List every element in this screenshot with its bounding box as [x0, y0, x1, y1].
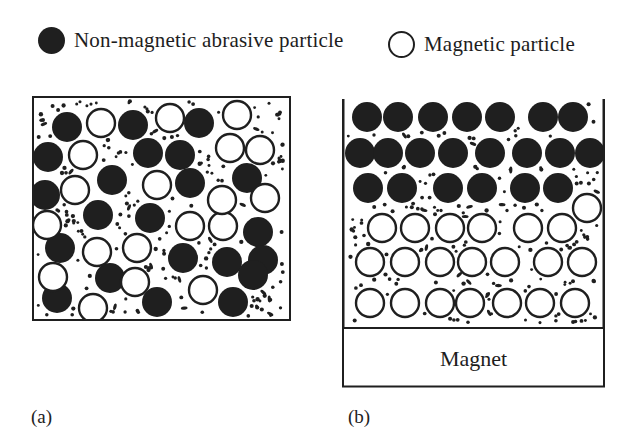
magnetic-particle [426, 248, 454, 276]
nonmagnetic-abrasive-particle [575, 138, 605, 168]
magnetic-particle [246, 136, 274, 164]
nonmagnetic-abrasive-particle [475, 138, 505, 168]
magnetic-particle [156, 104, 184, 132]
magnetic-particle [391, 289, 419, 317]
nonmagnetic-abrasive-particle [238, 260, 268, 290]
panel-b-separated-particles-diagram: Magnet [342, 98, 605, 388]
nonmagnetic-abrasive-particle [133, 138, 163, 168]
nonmagnetic-abrasive-particle [218, 287, 248, 317]
magnetic-particle [121, 268, 149, 296]
magnet-label: Magnet [440, 346, 507, 371]
magnetic-particle [143, 171, 171, 199]
magnetic-particle [548, 214, 576, 242]
magnetic-particle [209, 212, 237, 240]
magnetic-particle [368, 214, 396, 242]
nonmagnetic-abrasive-particle [168, 243, 198, 273]
filled-circle-icon [38, 27, 65, 54]
panel-b-caption: (b) [348, 406, 370, 428]
magnetic-particle [436, 214, 464, 242]
magnetic-particle [514, 214, 542, 242]
legend-item-nonmagnetic-abrasive: Non-magnetic abrasive particle [38, 27, 344, 54]
nonmagnetic-abrasive-particle [467, 173, 497, 203]
magnetic-particle [61, 176, 89, 204]
magnetic-particle [33, 211, 61, 239]
nonmagnetic-abrasive-particle [485, 102, 515, 132]
nonmagnetic-abrasive-particle [352, 102, 382, 132]
nonmagnetic-abrasive-particle [418, 102, 448, 132]
nonmagnetic-abrasive-particle [33, 142, 63, 172]
nonmagnetic-abrasive-particle [452, 102, 482, 132]
nonmagnetic-abrasive-particle [184, 108, 214, 138]
nonmagnetic-abrasive-particle [438, 138, 468, 168]
magnetic-particle [223, 101, 251, 129]
magnetic-particle [189, 276, 217, 304]
magnetic-particle [176, 212, 204, 240]
magnetic-particle [468, 214, 496, 242]
nonmagnetic-abrasive-particle [32, 180, 60, 210]
nonmagnetic-abrasive-particle [165, 140, 195, 170]
magnetic-particle [426, 289, 454, 317]
magnetic-particle [491, 248, 519, 276]
nonmagnetic-abrasive-particle [433, 173, 463, 203]
magnetic-particle [208, 186, 236, 214]
magnetic-particle [401, 214, 429, 242]
magnetic-particle [458, 248, 486, 276]
magnetic-particle [568, 248, 596, 276]
legend-label-nonmagnetic-abrasive: Non-magnetic abrasive particle [74, 28, 344, 53]
nonmagnetic-abrasive-particle [52, 112, 82, 142]
magnetic-particle [456, 289, 484, 317]
nonmagnetic-abrasive-particle [545, 138, 575, 168]
nonmagnetic-abrasive-particle [387, 173, 417, 203]
nonmagnetic-abrasive-particle [353, 173, 383, 203]
nonmagnetic-abrasive-particle [135, 203, 165, 233]
magnetic-particle [251, 184, 279, 212]
magnetic-particle [83, 238, 111, 266]
nonmagnetic-abrasive-particle [510, 173, 540, 203]
open-circle-icon [388, 31, 415, 58]
nonmagnetic-abrasive-particle [558, 102, 588, 132]
magnetic-particle [526, 289, 554, 317]
nonmagnetic-abrasive-particle [383, 102, 413, 132]
nonmagnetic-abrasive-particle [175, 168, 205, 198]
nonmagnetic-abrasive-particle [405, 138, 435, 168]
nonmagnetic-abrasive-particle [543, 173, 573, 203]
nonmagnetic-abrasive-particle [512, 138, 542, 168]
nonmagnetic-abrasive-particle [345, 138, 375, 168]
nonmagnetic-abrasive-particle [83, 200, 113, 230]
nonmagnetic-abrasive-particle [528, 102, 558, 132]
nonmagnetic-abrasive-particle [212, 247, 242, 277]
magnetic-particle [216, 134, 244, 162]
magnetic-particle [39, 263, 67, 291]
magnetic-particle [69, 141, 97, 169]
figure-magnetic-separation-diagram: Non-magnetic abrasive particle Magnetic … [0, 0, 637, 447]
magnetic-particle [79, 294, 107, 321]
magnetic-particle [573, 194, 601, 222]
nonmagnetic-abrasive-particle [118, 110, 148, 140]
panel-a-caption: (a) [31, 406, 52, 428]
magnetic-particle [493, 289, 521, 317]
legend-item-magnetic: Magnetic particle [388, 31, 575, 58]
magnetic-particle [534, 248, 562, 276]
nonmagnetic-abrasive-particle [373, 138, 403, 168]
legend-label-magnetic: Magnetic particle [424, 32, 575, 57]
magnetic-particle [561, 289, 589, 317]
magnetic-particle [123, 234, 151, 262]
magnetic-particle [356, 289, 384, 317]
nonmagnetic-abrasive-particle [243, 217, 273, 247]
magnetic-particle [356, 248, 384, 276]
panel-a-mixed-particles-diagram [32, 96, 291, 321]
magnetic-particle [391, 248, 419, 276]
magnetic-particle [87, 109, 115, 137]
nonmagnetic-abrasive-particle [97, 165, 127, 195]
